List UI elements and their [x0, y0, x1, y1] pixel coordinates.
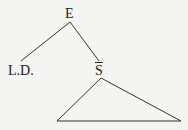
edge-e-to-s: [70, 22, 99, 61]
edge-e-to-ld: [21, 22, 70, 61]
subtree-triangle: [57, 78, 181, 121]
node-e: E: [65, 7, 74, 21]
node-ld: L.D.: [8, 64, 34, 78]
node-s-bar: S: [95, 64, 103, 78]
